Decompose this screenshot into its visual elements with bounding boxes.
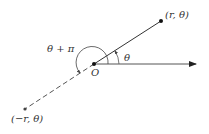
point-r-theta xyxy=(159,19,163,23)
dashed-ray-neg-r xyxy=(25,64,94,109)
origin-point xyxy=(92,62,96,66)
origin-label: O xyxy=(91,68,99,78)
theta-arc xyxy=(115,51,119,64)
neg-point-label: (−r, θ) xyxy=(11,114,43,124)
point-r-theta-label: (r, θ) xyxy=(165,10,189,20)
point-neg-r-theta xyxy=(23,107,26,110)
theta-plus-pi-label: θ + π xyxy=(47,44,74,54)
theta-label: θ xyxy=(124,53,130,63)
